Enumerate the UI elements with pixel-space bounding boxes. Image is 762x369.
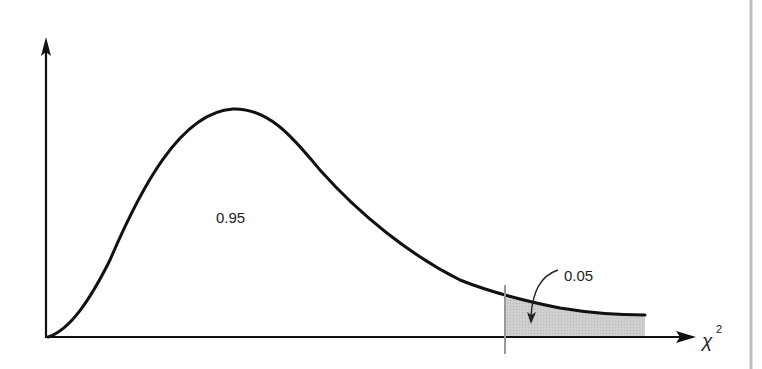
x-axis-label-superscript: 2 [716, 323, 722, 335]
rejection-region-shading [505, 297, 645, 337]
x-axis-label: χ [700, 330, 713, 351]
chi-square-curve [48, 109, 645, 337]
tail-area-label: 0.05 [564, 267, 593, 284]
center-area-label: 0.95 [216, 209, 245, 226]
chi-square-chart: 0.95 0.05 χ 2 [0, 0, 762, 369]
